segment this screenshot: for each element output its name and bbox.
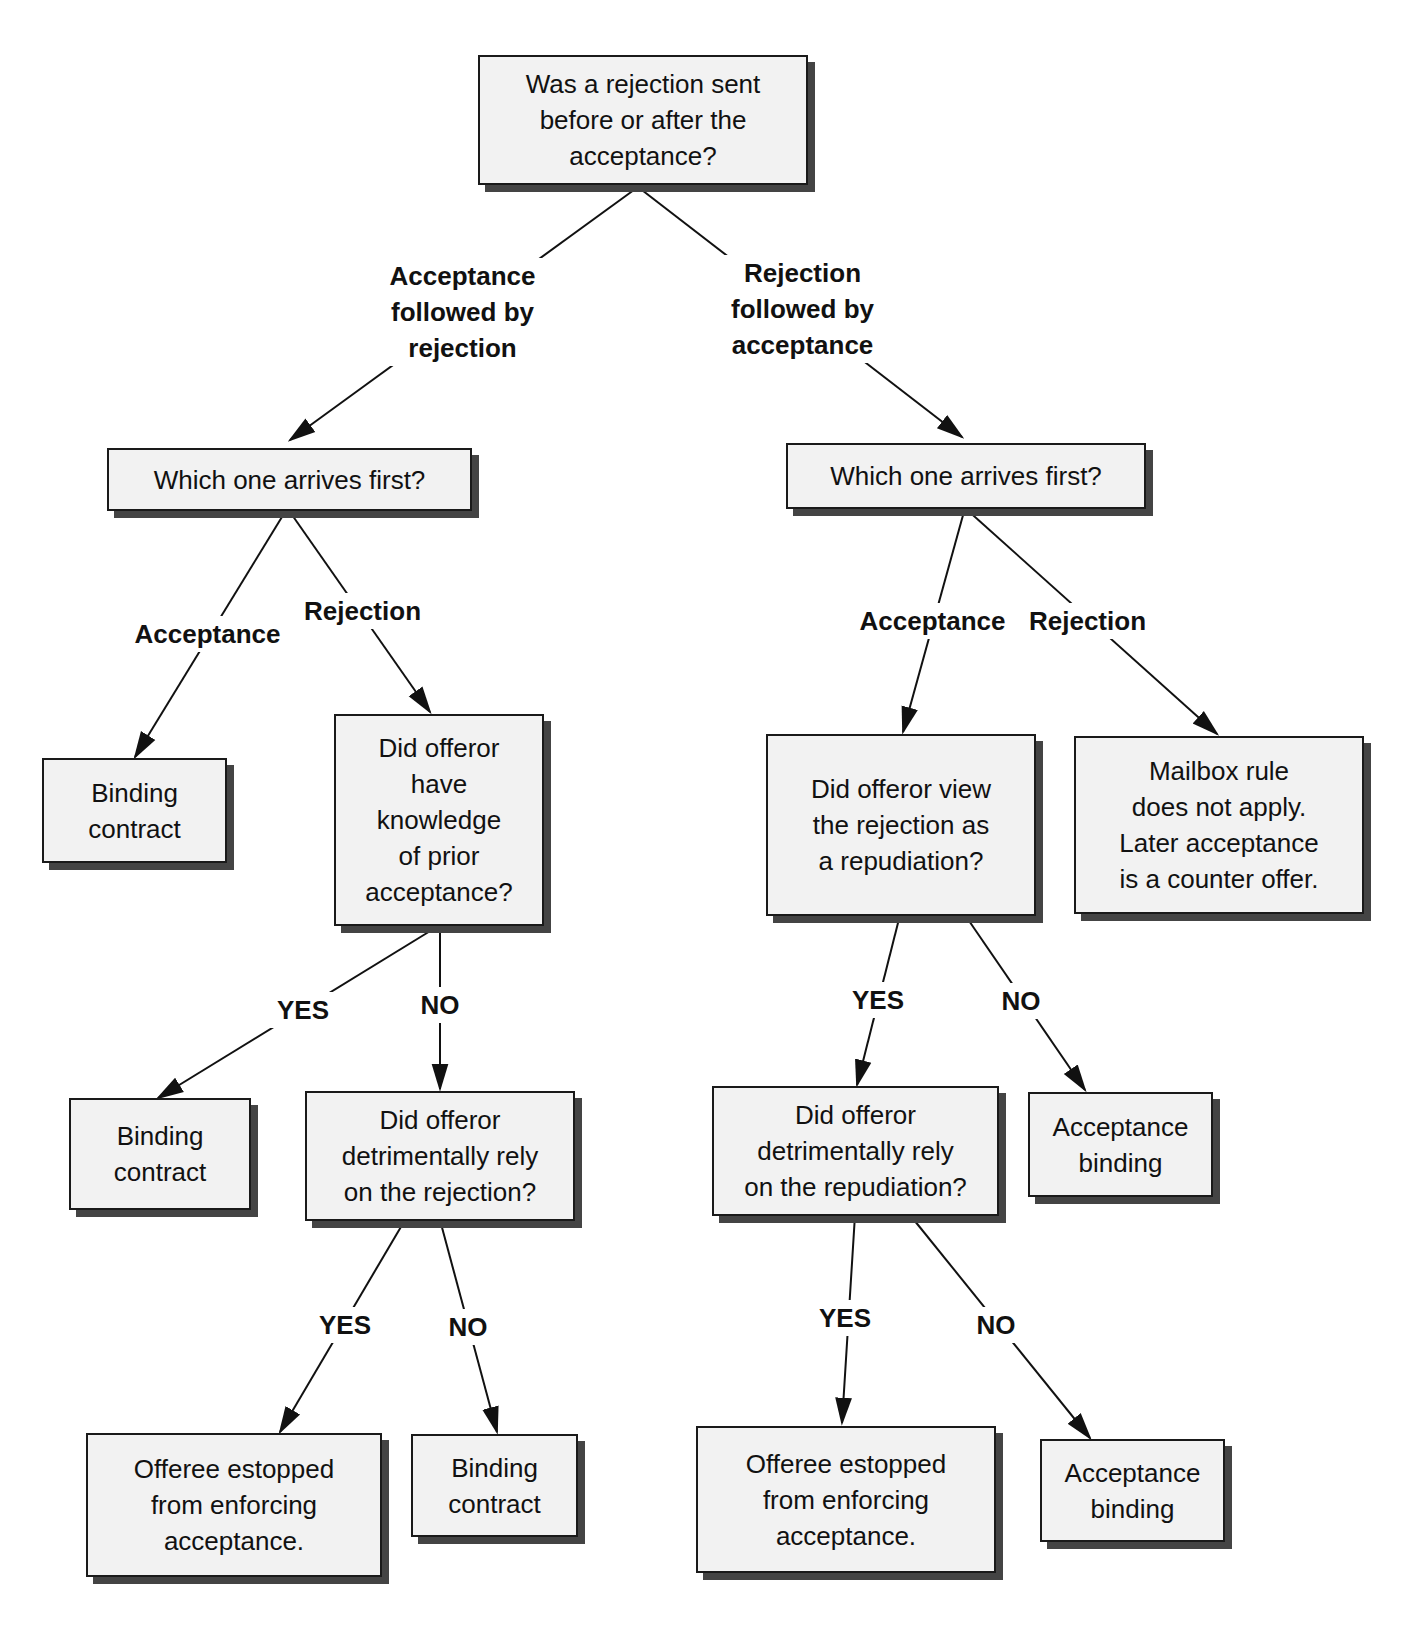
root-question-node: Was a rejection sent before or after the…: [478, 55, 808, 185]
node-text: Acceptance binding: [1053, 1109, 1189, 1181]
left-offeree-estopped-node: Offeree estopped from enforcing acceptan…: [86, 1433, 382, 1577]
edge-label-knowledge-yes: YES: [268, 992, 338, 1028]
right-acceptance-binding-2: Acceptance binding: [1040, 1439, 1225, 1542]
edge-label-acceptance-followed-by-rejection: Acceptance followed by rejection: [375, 258, 550, 366]
edge-label-knowledge-no: NO: [412, 987, 468, 1023]
mailbox-rule-node: Mailbox rule does not apply. Later accep…: [1074, 736, 1364, 914]
rely-on-rejection-question-node: Did offeror detrimentally rely on the re…: [305, 1091, 575, 1221]
node-text: Which one arrives first?: [830, 458, 1102, 494]
edge-label-rely-rejection-no: NO: [440, 1309, 496, 1345]
knowledge-question-node: Did offeror have knowledge of prior acce…: [334, 714, 544, 926]
node-text: Acceptance binding: [1065, 1455, 1201, 1527]
left-binding-contract-1: Binding contract: [42, 758, 227, 863]
edge-label-left-rejection: Rejection: [295, 593, 430, 629]
node-text: Binding contract: [114, 1118, 207, 1190]
node-text: Did offeror view the rejection as a repu…: [811, 771, 991, 879]
node-text: Binding contract: [448, 1450, 541, 1522]
repudiation-question-node: Did offeror view the rejection as a repu…: [766, 734, 1036, 916]
right-offeree-estopped-node: Offeree estopped from enforcing acceptan…: [696, 1426, 996, 1573]
node-text: Was a rejection sent before or after the…: [526, 66, 761, 174]
edge-label-right-rejection: Rejection: [1020, 603, 1155, 639]
edge-label-rely-repudiation-no: NO: [968, 1307, 1024, 1343]
rely-on-repudiation-question-node: Did offeror detrimentally rely on the re…: [712, 1086, 999, 1216]
node-text: Offeree estopped from enforcing acceptan…: [134, 1451, 334, 1559]
node-text: Offeree estopped from enforcing acceptan…: [746, 1446, 946, 1554]
node-text: Mailbox rule does not apply. Later accep…: [1119, 753, 1318, 897]
edge-label-right-acceptance: Acceptance: [850, 603, 1015, 639]
edge-label-rely-repudiation-yes: YES: [810, 1300, 880, 1336]
left-which-first-node: Which one arrives first?: [107, 448, 472, 511]
edge-label-repudiation-no: NO: [993, 983, 1049, 1019]
edge-label-repudiation-yes: YES: [843, 982, 913, 1018]
left-binding-contract-2: Binding contract: [69, 1098, 251, 1210]
node-text: Did offeror have knowledge of prior acce…: [365, 730, 512, 910]
node-text: Binding contract: [88, 775, 181, 847]
left-binding-contract-3: Binding contract: [411, 1434, 578, 1537]
edge-label-rejection-followed-by-acceptance: Rejection followed by acceptance: [715, 255, 890, 363]
node-text: Which one arrives first?: [154, 462, 426, 498]
edge-label-left-acceptance: Acceptance: [125, 616, 290, 652]
node-text: Did offeror detrimentally rely on the re…: [744, 1097, 967, 1205]
node-text: Did offeror detrimentally rely on the re…: [342, 1102, 539, 1210]
edge-label-rely-rejection-yes: YES: [310, 1307, 380, 1343]
right-which-first-node: Which one arrives first?: [786, 443, 1146, 509]
right-acceptance-binding-1: Acceptance binding: [1028, 1092, 1213, 1197]
